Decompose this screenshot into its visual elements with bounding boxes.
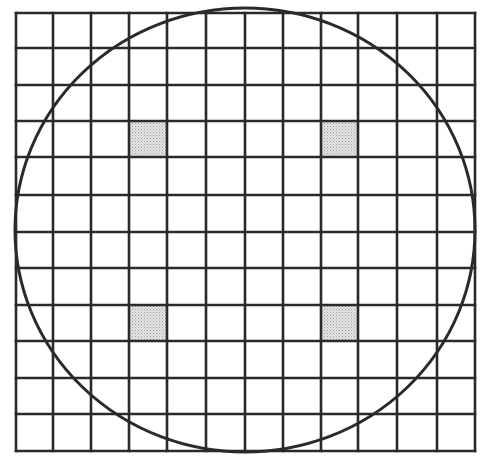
grid-lines [16,13,475,451]
shaded-cell [129,305,167,341]
shaded-cell [321,305,358,341]
diagram-canvas [0,0,483,473]
shaded-cell [321,121,358,157]
shaded-cell [129,121,167,157]
circle-grid-diagram [0,0,483,473]
